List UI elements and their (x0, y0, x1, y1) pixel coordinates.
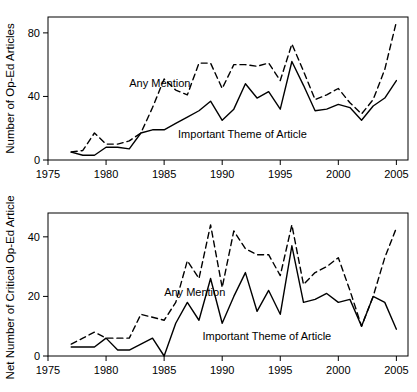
y-tick-label-0: 0 (34, 350, 40, 362)
figure-container: 040801975198019851990199520002005Number … (0, 0, 417, 392)
y-tick-label-80: 80 (28, 27, 40, 39)
x-tick-label-1990: 1990 (210, 364, 234, 376)
x-tick-label-1995: 1995 (268, 364, 292, 376)
x-tick-label-1980: 1980 (94, 168, 118, 180)
series-label-important-theme-of-article: Important Theme of Article (178, 128, 307, 140)
x-tick-label-2000: 2000 (326, 364, 350, 376)
x-tick-label-1980: 1980 (94, 364, 118, 376)
series-label-important-theme-of-article: Important Theme of Article (202, 330, 331, 342)
x-tick-label-2000: 2000 (326, 168, 350, 180)
x-tick-label-1995: 1995 (268, 168, 292, 180)
series-line-any-mention (71, 225, 396, 344)
chart-panel-op-ed-articles: 040801975198019851990199520002005Number … (0, 0, 417, 196)
y-tick-label-20: 20 (28, 290, 40, 302)
series-line-important-theme-of-article (71, 61, 396, 155)
x-tick-label-1990: 1990 (210, 168, 234, 180)
x-tick-label-1985: 1985 (152, 168, 176, 180)
y-tick-label-40: 40 (28, 90, 40, 102)
chart-svg-bottom: 020401975198019851990199520002005Net Num… (0, 196, 417, 392)
chart-panel-net-critical-op-ed-articles: 020401975198019851990199520002005Net Num… (0, 196, 417, 392)
x-tick-label-1975: 1975 (36, 364, 60, 376)
y-tick-label-0: 0 (34, 154, 40, 166)
x-tick-label-2005: 2005 (384, 364, 408, 376)
y-axis-title: Net Number of Critical Op-Ed Articles (4, 196, 16, 379)
series-label-any-mention: Any Mention (129, 77, 190, 89)
chart-svg-top: 040801975198019851990199520002005Number … (0, 0, 417, 196)
x-tick-label-1975: 1975 (36, 168, 60, 180)
x-tick-label-1985: 1985 (152, 364, 176, 376)
series-label-any-mention: Any Mention (164, 286, 225, 298)
x-tick-label-2005: 2005 (384, 168, 408, 180)
y-axis-title: Number of Op-Ed Articles (4, 23, 16, 154)
y-tick-label-40: 40 (28, 231, 40, 243)
